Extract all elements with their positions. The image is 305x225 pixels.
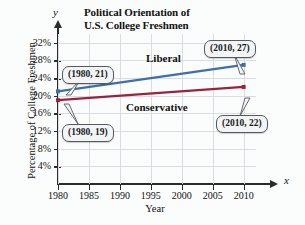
y-tick-label: 16% — [17, 107, 51, 118]
callout-1980-21: (1980, 21) — [62, 66, 114, 84]
x-axis-letter: x — [284, 174, 289, 186]
series-label-conservative: Conservative — [126, 101, 188, 113]
chart-title: Political Orientation of U.S. College Fr… — [84, 6, 254, 31]
y-tick-label: 20% — [17, 90, 51, 101]
y-tick-label: 12% — [17, 125, 51, 136]
x-axis-title: Year — [55, 203, 255, 214]
y-tick-label: 32% — [17, 37, 51, 48]
y-tick-label: 4% — [17, 160, 51, 171]
x-axis-arrow-icon — [270, 180, 278, 188]
y-axis-arrow-icon — [54, 20, 62, 28]
series-line-conservative — [58, 87, 244, 100]
chart-figure: Political Orientation of U.S. College Fr… — [0, 0, 305, 225]
data-point-marker — [56, 98, 60, 102]
callout-2010-27: (2010, 27) — [204, 40, 256, 58]
callout-2010-22: (2010, 22) — [216, 115, 268, 133]
chart-title-line-2: U.S. College Freshmen — [84, 19, 254, 32]
chart-title-line-1: Political Orientation of — [84, 6, 254, 19]
y-tick-label: 24% — [17, 72, 51, 83]
data-point-marker — [242, 85, 246, 89]
callout-1980-19: (1980, 19) — [62, 124, 114, 142]
data-point-marker — [56, 89, 60, 93]
data-point-marker — [242, 63, 246, 67]
x-tick-label: 2010 — [222, 190, 266, 201]
y-tick-label: 8% — [17, 143, 51, 154]
y-axis-letter: y — [53, 6, 58, 18]
y-tick-label: 28% — [17, 54, 51, 65]
series-label-liberal: Liberal — [146, 52, 181, 64]
